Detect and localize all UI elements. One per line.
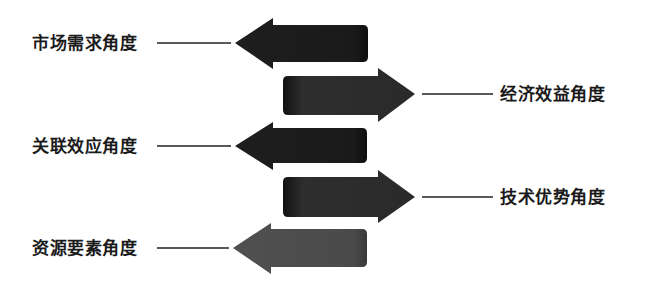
arrow-right-2 (283, 68, 493, 122)
arrow-right-4 (283, 170, 493, 223)
arrow-left-5 (157, 223, 367, 274)
label-market-demand: 市场需求角度 (32, 33, 137, 53)
arrow-left-1 (157, 18, 368, 69)
arrow-left-3 (157, 122, 367, 170)
label-resource-factor: 资源要素角度 (32, 238, 137, 258)
label-technical-advantage: 技术优势角度 (500, 187, 605, 207)
label-linkage-effect: 关联效应角度 (32, 136, 137, 156)
label-economic-benefit: 经济效益角度 (500, 84, 605, 104)
